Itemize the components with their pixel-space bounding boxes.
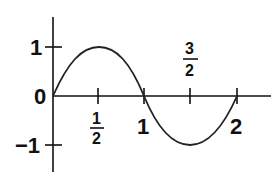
x-label-2: 2: [230, 114, 242, 139]
x-label-half-numerator: 1: [92, 110, 101, 127]
sine-chart: 1 0 −1 1 2 1 3 2 2: [0, 0, 279, 178]
x-label-1: 1: [137, 114, 149, 139]
x-label-three-halves-denominator: 2: [185, 62, 194, 79]
x-label-half-denominator: 2: [92, 130, 101, 147]
x-label-three-halves-numerator: 3: [185, 40, 194, 57]
y-label-1: 1: [30, 35, 42, 60]
y-label-0: 0: [34, 84, 46, 109]
y-label-neg1: −1: [15, 133, 40, 158]
